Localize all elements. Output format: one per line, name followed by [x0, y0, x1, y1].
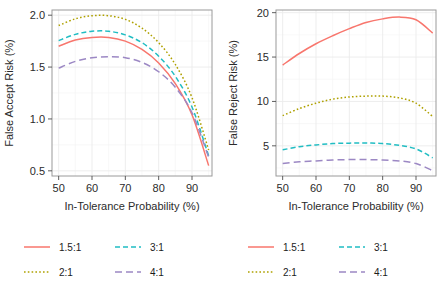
false-reject-risk-plot: 50607080905101520In-Tolerance Probabilit… [224, 0, 448, 222]
x-tick-label: 50 [53, 182, 65, 194]
legend-left-graphic: 1.5:13:12:14:1 [0, 222, 224, 293]
y-axis-title: False Accept Risk (%) [3, 39, 15, 147]
y-tick-label: 5 [263, 140, 269, 152]
x-tick-label: 70 [343, 182, 355, 194]
x-axis-title: In-Tolerance Probability (%) [288, 200, 423, 212]
x-tick-label: 70 [119, 182, 131, 194]
charts-row: 50607080900.51.01.52.0In-Tolerance Proba… [0, 0, 448, 222]
y-axis-title: False Reject Risk (%) [227, 40, 239, 146]
x-tick-label: 50 [277, 182, 289, 194]
legend-label-4-1: 4:1 [374, 267, 388, 278]
legends-row: 1.5:13:12:14:1 1.5:13:12:14:1 [0, 222, 448, 293]
legend-label-4-1: 4:1 [150, 267, 164, 278]
y-tick-label: 15 [257, 51, 269, 63]
legend-label-3-1: 3:1 [150, 242, 164, 253]
legend-left: 1.5:13:12:14:1 [0, 222, 224, 293]
legend-right-graphic: 1.5:13:12:14:1 [224, 222, 448, 293]
legend-right: 1.5:13:12:14:1 [224, 222, 448, 293]
y-tick-label: 10 [257, 95, 269, 107]
x-axis-title: In-Tolerance Probability (%) [64, 200, 199, 212]
legend-label-1-5-1: 1.5:1 [59, 242, 82, 253]
y-tick-label: 0.5 [30, 165, 45, 177]
legend-label-2-1: 2:1 [59, 267, 73, 278]
x-tick-label: 60 [310, 182, 322, 194]
false-accept-risk-plot: 50607080900.51.01.52.0In-Tolerance Proba… [0, 0, 224, 222]
chart-false-accept-risk: 50607080900.51.01.52.0In-Tolerance Proba… [0, 0, 224, 222]
y-tick-label: 1.5 [30, 61, 45, 73]
y-tick-label: 2.0 [30, 9, 45, 21]
legend-label-1-5-1: 1.5:1 [283, 242, 306, 253]
x-tick-label: 80 [153, 182, 165, 194]
figure-panel: 50607080900.51.01.52.0In-Tolerance Proba… [0, 0, 448, 293]
y-tick-label: 1.0 [30, 113, 45, 125]
x-tick-label: 90 [410, 182, 422, 194]
y-tick-label: 20 [257, 7, 269, 19]
chart-false-reject-risk: 50607080905101520In-Tolerance Probabilit… [224, 0, 448, 222]
x-tick-label: 80 [377, 182, 389, 194]
legend-label-2-1: 2:1 [283, 267, 297, 278]
legend-label-3-1: 3:1 [374, 242, 388, 253]
x-tick-label: 90 [186, 182, 198, 194]
x-tick-label: 60 [86, 182, 98, 194]
